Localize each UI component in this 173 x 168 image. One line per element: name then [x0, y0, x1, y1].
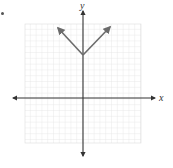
graph-plot — [0, 0, 173, 168]
y-axis-label: y — [80, 1, 84, 11]
x-axis-label: x — [159, 93, 163, 103]
